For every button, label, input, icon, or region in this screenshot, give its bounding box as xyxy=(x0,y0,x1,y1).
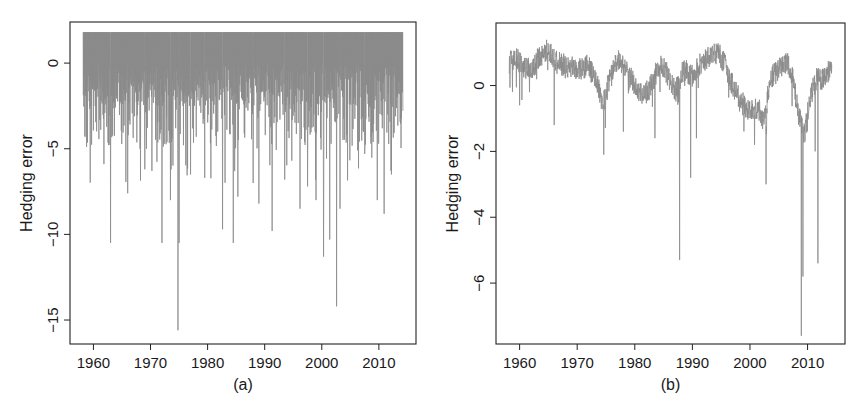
x-tick-label: 1970 xyxy=(134,354,167,371)
x-tick-label: 1970 xyxy=(561,354,594,371)
y-tick-label: −10 xyxy=(44,222,61,247)
x-tick-label: 2010 xyxy=(362,354,395,371)
y-axis-label: Hedging error xyxy=(18,133,35,232)
x-tick-label: 2000 xyxy=(733,354,766,371)
x-tick-label: 1990 xyxy=(676,354,709,371)
panel-caption: (b) xyxy=(661,376,681,393)
y-tick-label: 0 xyxy=(470,81,487,89)
y-axis: 0−2−4−6 xyxy=(470,81,496,291)
y-tick-label: 0 xyxy=(44,59,61,67)
y-tick-label: −4 xyxy=(470,209,487,226)
y-tick-label: −6 xyxy=(470,275,487,292)
x-axis: 196019701980199020002010 xyxy=(77,344,396,371)
figure: 196019701980199020002010 0−5−10−15 Hedgi… xyxy=(0,0,852,420)
x-tick-label: 1990 xyxy=(248,354,281,371)
x-axis: 196019701980199020002010 xyxy=(503,344,824,371)
x-tick-label: 1980 xyxy=(191,354,224,371)
y-tick-label: −15 xyxy=(44,307,61,332)
x-tick-label: 2000 xyxy=(305,354,338,371)
series-line xyxy=(509,40,832,336)
y-tick-label: −2 xyxy=(470,143,487,160)
y-tick-label: −5 xyxy=(44,140,61,157)
y-axis: 0−5−10−15 xyxy=(44,59,70,333)
x-tick-label: 1980 xyxy=(618,354,651,371)
panel-caption: (a) xyxy=(233,376,253,393)
x-tick-label: 2010 xyxy=(791,354,824,371)
panel-a: 196019701980199020002010 0−5−10−15 Hedgi… xyxy=(18,22,416,393)
panel-b: 196019701980199020002010 0−2−4−6 Hedging… xyxy=(444,23,845,393)
series-line xyxy=(83,32,403,330)
y-axis-label: Hedging error xyxy=(444,134,461,233)
x-tick-label: 1960 xyxy=(77,354,110,371)
x-tick-label: 1960 xyxy=(503,354,536,371)
